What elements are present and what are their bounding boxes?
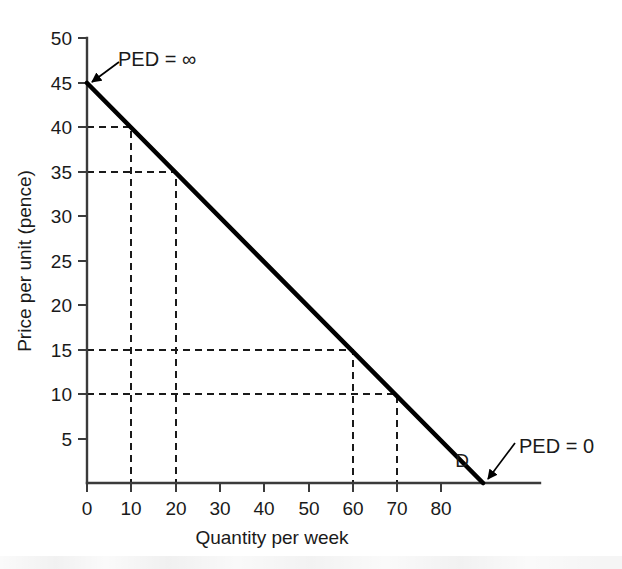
ped-demand-chart: 5 10 15 20 25 30 35 40 45 50 0 10 [0, 0, 622, 569]
x-axis-tick-labels: 0 10 20 30 40 50 60 70 80 [82, 498, 452, 519]
demand-curve-line [87, 83, 483, 483]
guide-line-p10-q70 [87, 394, 397, 483]
y-tick-label-50: 50 [51, 28, 72, 49]
guide-line-p15-q60 [87, 350, 353, 483]
x-tick-label-40: 40 [253, 498, 274, 519]
y-tick-label-40: 40 [51, 117, 72, 138]
y-tick-label-30: 30 [51, 206, 72, 227]
y-tick-label-10: 10 [51, 384, 72, 405]
x-axis-ticks [87, 483, 441, 492]
y-tick-label-25: 25 [51, 251, 72, 272]
x-tick-label-50: 50 [298, 498, 319, 519]
x-tick-label-30: 30 [209, 498, 230, 519]
demand-curve-label: D [455, 450, 469, 471]
y-tick-label-5: 5 [61, 429, 72, 450]
annotation-ped-infinity: PED = ∞ [92, 48, 196, 82]
y-tick-label-15: 15 [51, 340, 72, 361]
demand-curve-figure: 5 10 15 20 25 30 35 40 45 50 0 10 [0, 0, 622, 569]
x-tick-label-60: 60 [342, 498, 363, 519]
y-axis-title: Price per unit (pence) [14, 170, 35, 352]
y-tick-label-35: 35 [51, 162, 72, 183]
y-axis-tick-labels: 5 10 15 20 25 30 35 40 45 50 [51, 28, 72, 450]
x-tick-label-80: 80 [430, 498, 451, 519]
ped-zero-label: PED = 0 [519, 435, 594, 457]
y-tick-label-45: 45 [51, 73, 72, 94]
ped-infinity-label: PED = ∞ [118, 48, 196, 70]
annotation-ped-zero: PED = 0 [488, 435, 594, 479]
x-tick-label-0: 0 [82, 498, 93, 519]
axes [87, 38, 540, 483]
guide-lines [87, 127, 397, 483]
ped-zero-leader-line [488, 443, 515, 479]
guide-line-p40-q10 [87, 127, 131, 483]
x-tick-label-70: 70 [386, 498, 407, 519]
ped-infinity-leader-line [92, 62, 119, 82]
x-axis-title: Quantity per week [195, 527, 349, 548]
y-axis-ticks [78, 38, 87, 439]
x-tick-label-20: 20 [165, 498, 186, 519]
y-tick-label-20: 20 [51, 295, 72, 316]
x-tick-label-10: 10 [120, 498, 141, 519]
